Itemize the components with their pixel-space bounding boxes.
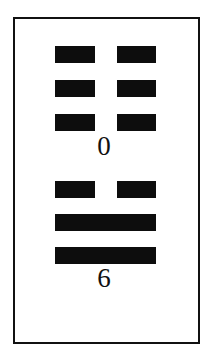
upper-line-1-left (55, 46, 95, 63)
lower-line-2-solid (55, 214, 156, 231)
upper-line-3-right (117, 114, 156, 131)
lower-label: 6 (0, 265, 208, 292)
lower-line-1-right (117, 181, 156, 198)
upper-label: 0 (0, 133, 208, 160)
figure-frame (13, 17, 200, 344)
upper-line-3-left (55, 114, 95, 131)
upper-line-2-left (55, 80, 95, 97)
upper-line-2-right (117, 80, 156, 97)
lower-line-1-left (55, 181, 95, 198)
upper-line-1-right (117, 46, 156, 63)
lower-line-3-solid (55, 247, 156, 264)
